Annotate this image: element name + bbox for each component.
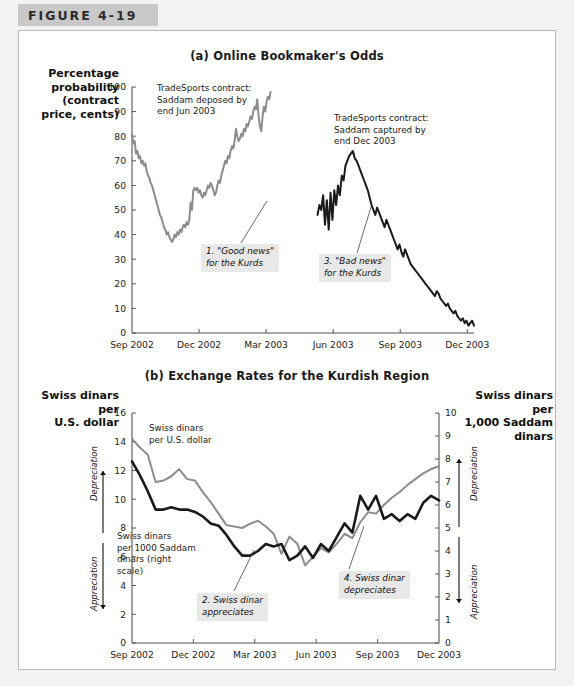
svg-text:9: 9	[445, 430, 451, 441]
svg-text:8: 8	[445, 453, 451, 464]
svg-text:1: 1	[445, 614, 451, 625]
svg-text:2: 2	[120, 609, 126, 620]
svg-text:6: 6	[120, 551, 126, 562]
svg-text:10: 10	[114, 494, 126, 505]
svg-text:0: 0	[445, 637, 451, 648]
svg-text:4: 4	[120, 580, 126, 591]
svg-text:5: 5	[445, 522, 451, 533]
svg-text:8: 8	[120, 522, 126, 533]
svg-text:Sep 2002: Sep 2002	[110, 649, 154, 660]
figure-frame: (a) Online Bookmaker's Odds Percentage p…	[18, 30, 556, 670]
svg-text:16: 16	[114, 407, 126, 418]
figure-page: FIGURE 4-19 (a) Online Bookmaker's Odds …	[0, 0, 574, 686]
svg-text:Jun 2003: Jun 2003	[295, 649, 337, 660]
svg-text:4: 4	[445, 545, 451, 556]
svg-text:10: 10	[445, 407, 457, 418]
svg-text:Dec 2002: Dec 2002	[171, 649, 215, 660]
panel-b-plot: 0246810121416012345678910Sep 2002Dec 200…	[19, 31, 557, 671]
svg-text:2: 2	[445, 591, 451, 602]
svg-text:Sep 2003: Sep 2003	[356, 649, 400, 660]
svg-text:14: 14	[114, 436, 126, 447]
svg-text:6: 6	[445, 499, 451, 510]
figure-number-band: FIGURE 4-19	[18, 4, 158, 26]
figure-number-label: FIGURE 4-19	[18, 8, 137, 23]
svg-text:3: 3	[445, 568, 451, 579]
svg-text:Dec 2003: Dec 2003	[417, 649, 461, 660]
svg-text:12: 12	[114, 465, 126, 476]
svg-text:7: 7	[445, 476, 451, 487]
svg-text:Mar 2003: Mar 2003	[233, 649, 277, 660]
svg-text:0: 0	[120, 637, 126, 648]
